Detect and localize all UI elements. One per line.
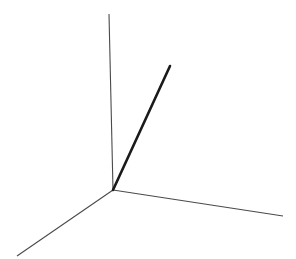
- diagram-canvas: [0, 0, 296, 259]
- axis-triad-vector-svg: [0, 0, 296, 259]
- background-rect: [0, 0, 296, 259]
